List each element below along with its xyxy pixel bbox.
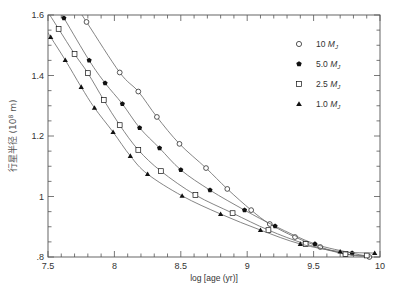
x-tick-label: 8.5 [175, 261, 188, 271]
x-tick-label: 8 [112, 261, 117, 271]
x-tick-label: 9 [245, 261, 250, 271]
legend-label: 10 MJ [316, 39, 339, 50]
x-axis-label: log [age (yr)] [190, 273, 238, 283]
y-tick-label: .8 [36, 252, 44, 262]
series-1-0-mj [39, 19, 377, 255]
legend: 10 MJ5.0 MJ2.5 MJ1.0 MJ [296, 39, 341, 110]
legend-label: 2.5 MJ [316, 79, 341, 90]
legend-item: 1.0 MJ [296, 99, 341, 110]
legend-item: 2.5 MJ [296, 79, 341, 90]
legend-label: 5.0 MJ [316, 59, 341, 70]
y-tick-label: 1.4 [31, 71, 44, 81]
legend-item: 10 MJ [296, 39, 339, 50]
x-tick-label: 9.5 [307, 261, 320, 271]
open-circle-icon [296, 41, 301, 46]
y-axis-label-text: 行星半径 [7, 136, 18, 172]
legend-item: 5.0 MJ [296, 59, 341, 70]
y-tick-label: 1.2 [31, 131, 44, 141]
plot-frame [48, 15, 380, 257]
svg-text:行星半径 (108 m): 行星半径 (108 m) [7, 100, 18, 173]
open-square-icon [296, 81, 301, 86]
x-axis: 7.588.599.510 [42, 15, 385, 271]
x-tick-label: 7.5 [42, 261, 55, 271]
chart-canvas: 7.588.599.510 .811.21.41.6 10 MJ5.0 MJ2.… [0, 0, 396, 295]
filled-triangle-icon [296, 101, 302, 106]
filled-pentagon-icon [296, 61, 301, 66]
y-tick-label: 1.6 [31, 10, 44, 20]
y-axis-label: 行星半径 (108 m) [7, 100, 18, 173]
legend-label: 1.0 MJ [316, 99, 341, 110]
x-tick-label: 10 [375, 261, 385, 271]
y-tick-label: 1 [39, 192, 44, 202]
